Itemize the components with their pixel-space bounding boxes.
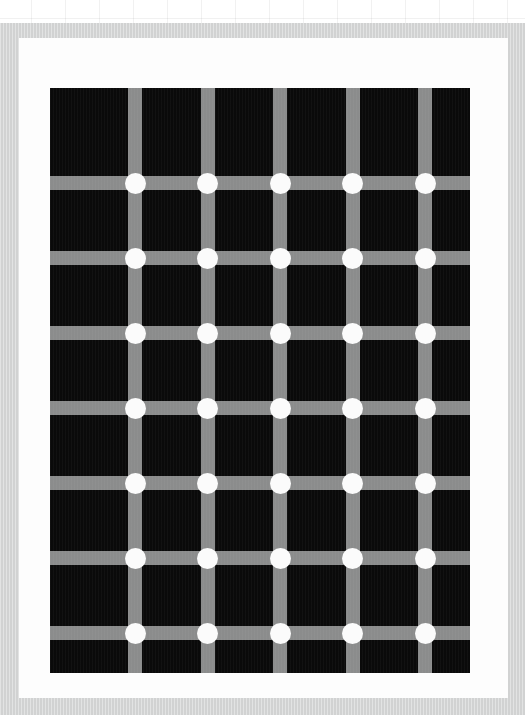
grid-dot-r2-c5 bbox=[415, 248, 436, 269]
grid-dot-r4-c4 bbox=[342, 398, 363, 419]
scintillating-grid-plate bbox=[50, 88, 470, 673]
grid-line-horizontal-5 bbox=[50, 476, 470, 490]
grid-dot-r5-c4 bbox=[342, 473, 363, 494]
grid-line-horizontal-4 bbox=[50, 401, 470, 415]
grid-dot-r2-c1 bbox=[125, 248, 146, 269]
grid-dot-r1-c1 bbox=[125, 173, 146, 194]
grid-dot-r5-c5 bbox=[415, 473, 436, 494]
grid-dot-r6-c1 bbox=[125, 548, 146, 569]
grid-dot-r1-c4 bbox=[342, 173, 363, 194]
grid-line-horizontal-3 bbox=[50, 326, 470, 340]
grid-dot-r1-c2 bbox=[197, 173, 218, 194]
grid-dot-r5-c1 bbox=[125, 473, 146, 494]
grid-dot-r1-c3 bbox=[270, 173, 291, 194]
grid-line-horizontal-1 bbox=[50, 176, 470, 190]
grid-dot-r2-c4 bbox=[342, 248, 363, 269]
grid-dot-r1-c5 bbox=[415, 173, 436, 194]
grid-line-horizontal-2 bbox=[50, 251, 470, 265]
grid-dot-r6-c2 bbox=[197, 548, 218, 569]
grid-dot-r4-c2 bbox=[197, 398, 218, 419]
grid-dot-r3-c3 bbox=[270, 323, 291, 344]
graph-paper-background bbox=[0, 0, 525, 24]
grid-dot-r5-c3 bbox=[270, 473, 291, 494]
grid-dot-r4-c3 bbox=[270, 398, 291, 419]
grid-dot-r2-c3 bbox=[270, 248, 291, 269]
grid-dot-r7-c1 bbox=[125, 623, 146, 644]
illusion-page bbox=[0, 0, 525, 715]
grid-line-horizontal-7 bbox=[50, 626, 470, 640]
grid-line-horizontal-6 bbox=[50, 551, 470, 565]
grid-dot-r7-c4 bbox=[342, 623, 363, 644]
grid-dot-r7-c3 bbox=[270, 623, 291, 644]
grid-dot-r7-c2 bbox=[197, 623, 218, 644]
grid-dot-r6-c4 bbox=[342, 548, 363, 569]
grid-dot-r3-c1 bbox=[125, 323, 146, 344]
grid-dot-r3-c5 bbox=[415, 323, 436, 344]
grid-dot-r6-c5 bbox=[415, 548, 436, 569]
grid-dot-r3-c4 bbox=[342, 323, 363, 344]
grid-dot-r7-c5 bbox=[415, 623, 436, 644]
grid-dot-r4-c5 bbox=[415, 398, 436, 419]
grid-dot-r3-c2 bbox=[197, 323, 218, 344]
grid-dot-r2-c2 bbox=[197, 248, 218, 269]
white-mat-border bbox=[19, 38, 508, 698]
grid-dot-r5-c2 bbox=[197, 473, 218, 494]
grid-dot-r6-c3 bbox=[270, 548, 291, 569]
outer-frame bbox=[0, 23, 525, 715]
grid-dot-r4-c1 bbox=[125, 398, 146, 419]
